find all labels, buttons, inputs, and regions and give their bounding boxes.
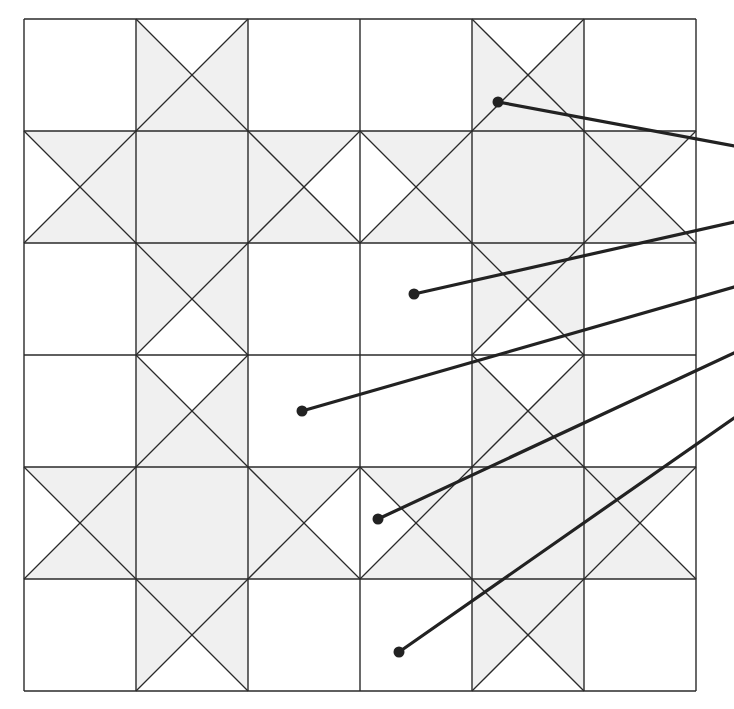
leader-dot-icon bbox=[297, 406, 308, 417]
leader-dot-icon bbox=[493, 97, 504, 108]
star-center-square bbox=[136, 467, 248, 579]
leader-dot-icon bbox=[409, 289, 420, 300]
leader-dot-icon bbox=[373, 514, 384, 525]
ohio-star-quilt-diagram bbox=[0, 0, 734, 709]
star-center-square bbox=[472, 131, 584, 243]
star-center-square bbox=[136, 131, 248, 243]
leader-dot-icon bbox=[394, 647, 405, 658]
